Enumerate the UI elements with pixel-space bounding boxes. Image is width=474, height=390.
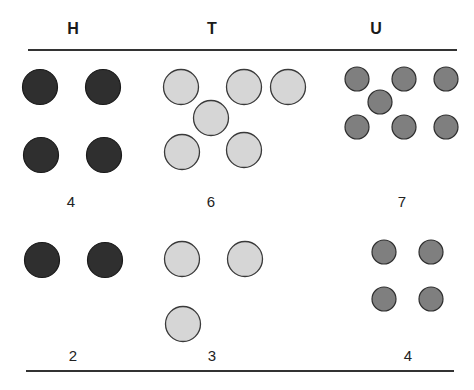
t-circle (228, 242, 263, 277)
u-circle (419, 240, 443, 264)
t-circle (194, 101, 229, 136)
u-circle (434, 67, 458, 91)
count-label-row1-h: 4 (67, 193, 75, 210)
row2-u-circles (372, 240, 443, 311)
count-label-row2-u: 4 (404, 347, 412, 364)
h-circle (87, 138, 122, 173)
h-circle (23, 70, 58, 105)
t-circle (164, 70, 199, 105)
row1-u-circles (345, 67, 458, 139)
h-circle (86, 70, 121, 105)
u-circle (368, 90, 392, 114)
u-circle (419, 287, 443, 311)
row1-h-circles (23, 70, 122, 173)
u-circle (345, 115, 369, 139)
h-circle (24, 138, 59, 173)
u-circle (392, 67, 416, 91)
t-circle (166, 307, 201, 342)
h-circle (25, 243, 60, 278)
u-circle (392, 115, 416, 139)
row1-t-circles (164, 70, 306, 170)
count-label-row1-u: 7 (398, 193, 406, 210)
count-label-row1-t: 6 (207, 193, 215, 210)
t-circle (227, 70, 262, 105)
t-circle (271, 70, 306, 105)
row2-h-circles (25, 243, 123, 278)
u-circle (345, 67, 369, 91)
u-circle (372, 287, 396, 311)
t-circle (165, 135, 200, 170)
count-label-row2-h: 2 (69, 347, 77, 364)
t-circle (165, 242, 200, 277)
h-circle (88, 243, 123, 278)
u-circle (434, 115, 458, 139)
u-circle (372, 240, 396, 264)
count-label-row2-t: 3 (208, 347, 216, 364)
t-circle (227, 133, 262, 168)
row2-t-circles (165, 242, 263, 342)
